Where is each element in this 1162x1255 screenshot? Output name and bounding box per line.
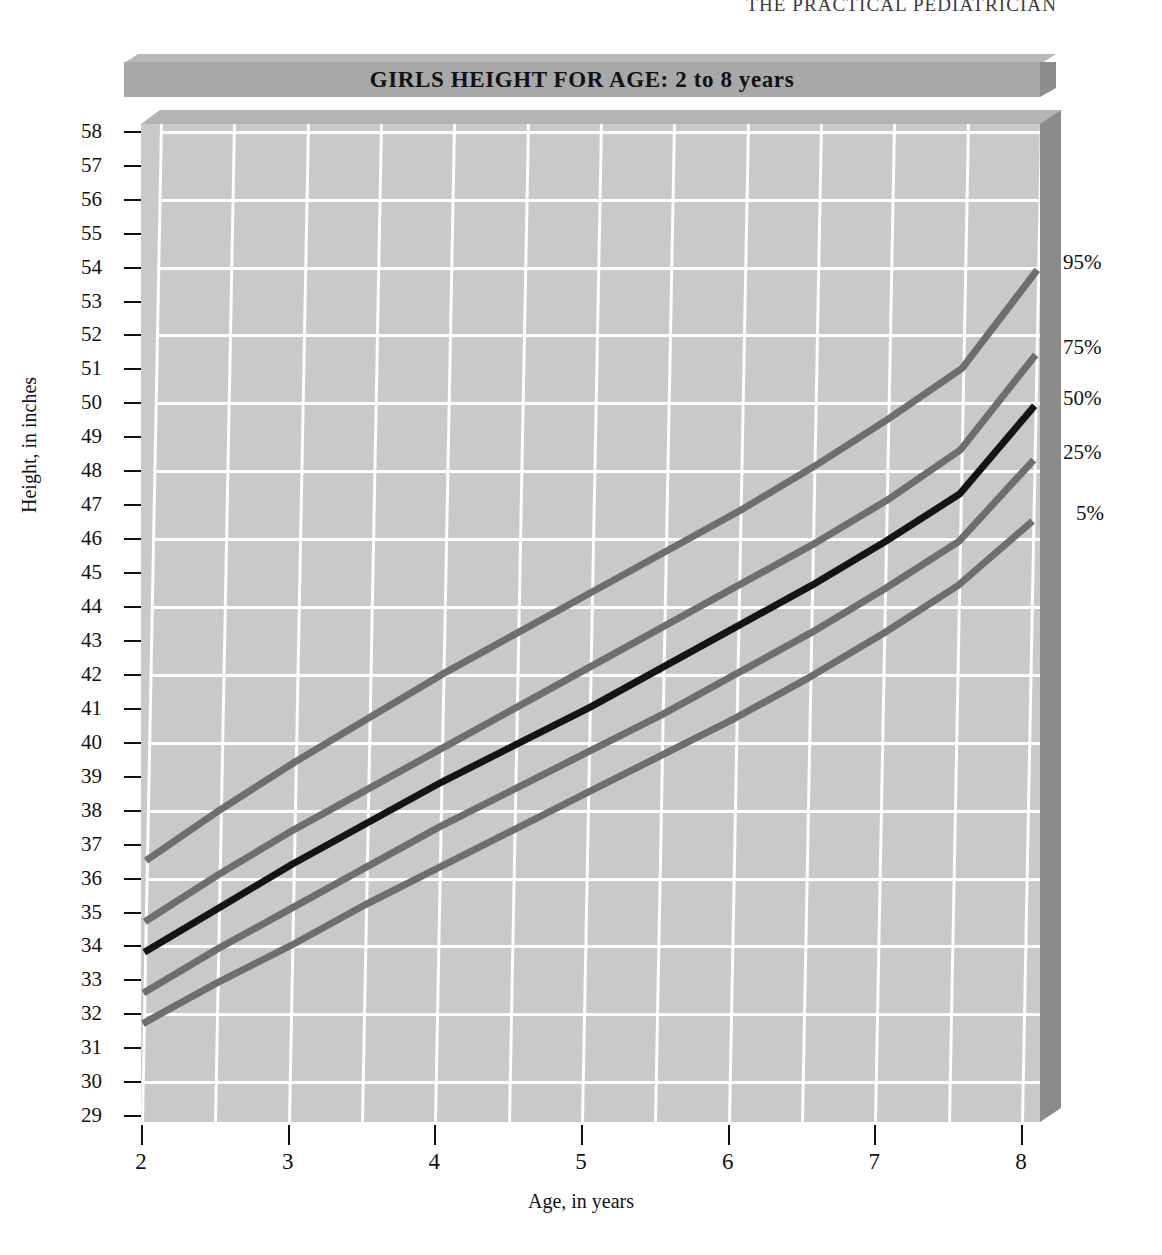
x-tick-mark [1021,1125,1023,1145]
y-tick-label: 29 [62,1103,102,1128]
y-tick-mark [124,674,141,676]
y-tick-label: 30 [62,1069,102,1094]
y-tick-mark [124,878,141,880]
y-tick-mark [124,810,141,812]
y-tick-label: 56 [62,187,102,212]
y-tick-mark [124,606,141,608]
y-tick-label: 41 [62,696,102,721]
percentile-label-75pct: 75% [1063,335,1102,360]
x-axis-title: Age, in years [0,1190,1162,1213]
y-axis-title: Height, in inches [18,283,41,513]
percentile-label-50pct: 50% [1063,386,1102,411]
y-tick-label: 52 [62,322,102,347]
y-tick-mark [124,844,141,846]
percentile-label-25pct: 25% [1063,440,1102,465]
running-page-header: THE PRACTICAL PEDIATRICIAN [0,0,1162,16]
y-tick-mark [124,470,141,472]
y-tick-label: 32 [62,1001,102,1026]
y-tick-mark [124,267,141,269]
y-tick-label: 38 [62,798,102,823]
y-tick-label: 31 [62,1035,102,1060]
y-tick-mark [124,708,141,710]
y-tick-mark [124,131,141,133]
percentile-label-5pct: 5% [1076,501,1104,526]
plot-top-bevel [141,110,1061,124]
curve-75pct [145,355,1036,922]
plot-right-side-panel [1040,110,1061,1123]
y-tick-mark [124,334,141,336]
y-tick-label: 53 [62,289,102,314]
y-tick-label: 54 [62,255,102,280]
y-tick-mark [124,640,141,642]
y-tick-label: 46 [62,526,102,551]
y-tick-mark [124,165,141,167]
y-tick-mark [124,436,141,438]
y-tick-mark [124,1013,141,1015]
y-tick-mark [124,742,141,744]
y-tick-label: 42 [62,662,102,687]
y-tick-mark [124,979,141,981]
x-tick-label: 5 [561,1149,601,1175]
y-tick-label: 57 [62,153,102,178]
x-tick-mark [434,1125,436,1145]
y-tick-label: 47 [62,492,102,517]
percentile-label-95pct: 95% [1063,250,1102,275]
curve-95pct [146,270,1037,861]
y-tick-mark [124,1115,141,1117]
x-tick-label: 3 [268,1149,308,1175]
title-slab-right-side [1040,62,1056,97]
curve-25pct [143,460,1033,993]
y-tick-mark [124,776,141,778]
x-tick-mark [581,1125,583,1145]
percentile-curves [141,124,1040,1122]
y-tick-mark [124,945,141,947]
x-tick-mark [141,1125,143,1145]
x-tick-mark [728,1125,730,1145]
y-tick-mark [124,233,141,235]
y-tick-mark [124,402,141,404]
y-tick-mark [124,538,141,540]
x-tick-label: 7 [854,1149,894,1175]
y-tick-label: 34 [62,933,102,958]
x-tick-label: 2 [121,1149,161,1175]
x-tick-label: 6 [708,1149,748,1175]
x-tick-label: 8 [1001,1149,1041,1175]
x-tick-mark [288,1125,290,1145]
y-tick-label: 58 [62,119,102,144]
y-tick-label: 37 [62,832,102,857]
y-tick-label: 49 [62,424,102,449]
y-tick-label: 39 [62,764,102,789]
chart-title: GIRLS HEIGHT FOR AGE: 2 to 8 years [124,63,1040,97]
y-tick-label: 50 [62,390,102,415]
y-tick-label: 48 [62,458,102,483]
y-tick-label: 33 [62,967,102,992]
growth-chart-page: THE PRACTICAL PEDIATRICIAN GIRLS HEIGHT … [0,0,1162,1255]
y-tick-mark [124,368,141,370]
y-tick-mark [124,1081,141,1083]
y-tick-label: 51 [62,356,102,381]
x-tick-label: 4 [414,1149,454,1175]
y-tick-label: 43 [62,628,102,653]
x-tick-mark [874,1125,876,1145]
y-tick-mark [124,301,141,303]
y-tick-mark [124,912,141,914]
y-tick-label: 36 [62,866,102,891]
y-tick-mark [124,1047,141,1049]
chart-title-slab: GIRLS HEIGHT FOR AGE: 2 to 8 years [124,54,1056,97]
y-tick-label: 35 [62,900,102,925]
y-tick-mark [124,199,141,201]
y-tick-label: 55 [62,221,102,246]
y-tick-label: 44 [62,594,102,619]
y-tick-mark [124,572,141,574]
y-tick-label: 40 [62,730,102,755]
y-tick-mark [124,504,141,506]
y-tick-label: 45 [62,560,102,585]
plot-area [141,110,1061,1123]
plot-face [141,124,1040,1122]
